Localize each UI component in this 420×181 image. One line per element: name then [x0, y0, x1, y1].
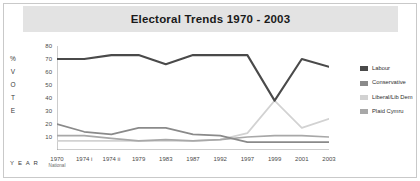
x-tick-label: 1974 ii: [103, 156, 121, 163]
legend-item-conservative[interactable]: Conservative: [360, 80, 413, 86]
y-tick-label: 60: [36, 69, 52, 75]
x-tick-label: 2001: [295, 156, 308, 163]
legend-swatch-icon: [360, 109, 368, 114]
chart-title-bar: Electoral Trends 1970 - 2003: [23, 6, 398, 32]
x-tick-label: 1992: [214, 156, 227, 163]
x-axis-caption: Y E A R: [10, 160, 39, 166]
x-tick-label: 2003: [322, 156, 335, 163]
x-tick-label: 1997: [241, 156, 254, 163]
legend-item-liberal-lib-dem[interactable]: Liberal/Lib Dem: [360, 95, 413, 101]
legend-item-plaid-cymru[interactable]: Plaid Cymru: [360, 109, 413, 115]
x-tick-label: 1983: [159, 156, 172, 163]
legend-swatch-icon: [360, 66, 368, 71]
y-axis-caption: %VOTE: [6, 56, 20, 115]
plot-area: [57, 46, 329, 150]
y-tick-label: 80: [36, 43, 52, 49]
legend-label: Plaid Cymru: [372, 109, 404, 115]
series-line-labour: [57, 55, 329, 101]
y-tick-label: 30: [36, 108, 52, 114]
x-tick-label: 1970National: [49, 156, 66, 168]
x-tick-label: 1974 i: [76, 156, 92, 163]
legend-label: Liberal/Lib Dem: [372, 95, 413, 101]
y-tick-label: 20: [36, 121, 52, 127]
y-axis-caption-letter-1: V: [11, 69, 15, 76]
series-line-conservative: [57, 124, 329, 142]
y-tick-label: 50: [36, 82, 52, 88]
x-tick-label: 1987: [186, 156, 199, 163]
y-axis-caption-letter-4: E: [11, 108, 15, 115]
x-tick-label: 1999: [268, 156, 281, 163]
x-tick-sublabel: National: [49, 163, 66, 168]
legend-swatch-icon: [360, 81, 368, 86]
plot-svg: [57, 46, 329, 150]
legend-label: Conservative: [372, 80, 406, 86]
y-axis-caption-letter-2: O: [10, 82, 15, 89]
y-tick-label: 10: [36, 134, 52, 140]
y-axis-caption-letter-0: %: [10, 56, 16, 63]
legend-swatch-icon: [360, 95, 368, 100]
y-axis-caption-letter-3: T: [11, 95, 15, 102]
legend-item-labour[interactable]: Labour: [360, 66, 413, 72]
x-tick-label: 1979: [132, 156, 145, 163]
chart-legend: LabourConservativeLiberal/Lib DemPlaid C…: [360, 66, 413, 115]
page-title: Electoral Trends 1970 - 2003: [131, 13, 291, 25]
legend-label: Labour: [372, 66, 390, 72]
y-tick-label: 70: [36, 56, 52, 62]
y-tick-label: 40: [36, 95, 52, 101]
electoral-trends-chart: Electoral Trends 1970 - 2003 %VOTE Y E A…: [0, 0, 420, 181]
